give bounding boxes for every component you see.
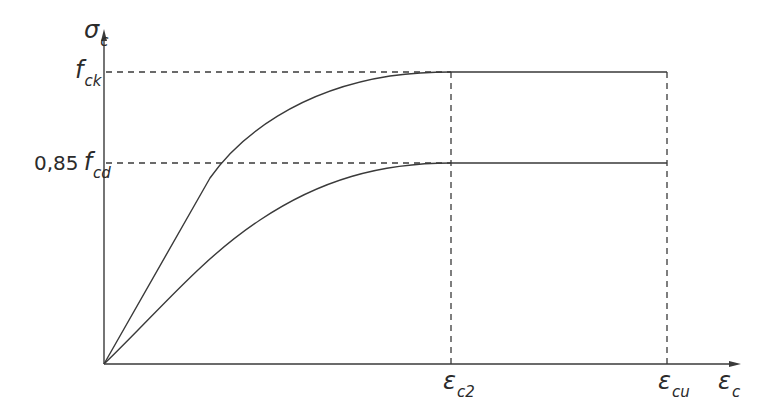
fcd-label: 0,85 fcd	[34, 150, 111, 174]
fck-subscript: ck	[84, 72, 101, 90]
fck-symbol: f	[75, 56, 83, 84]
characteristic-curve	[104, 72, 667, 364]
axes	[104, 36, 734, 364]
y-axis-label: σc	[84, 18, 108, 42]
ecu-subscript: cu	[672, 383, 690, 401]
y-axis-subscript: c	[100, 32, 108, 50]
x-axis-subscript: c	[732, 383, 740, 401]
x-axis-label: εc	[718, 369, 740, 393]
ec2-symbol: ε	[443, 367, 456, 395]
ec2-subscript: c2	[457, 383, 475, 401]
ecu-symbol: ε	[658, 367, 671, 395]
ecu-label: εcu	[658, 369, 690, 393]
stress-strain-diagram	[0, 0, 762, 413]
fcd-subscript: cd	[93, 164, 111, 182]
fck-label: fck	[75, 58, 101, 82]
design-curve	[104, 163, 667, 364]
fcd-factor: 0,85	[34, 151, 79, 175]
x-axis-symbol: ε	[718, 367, 731, 395]
dashed-guides	[106, 72, 667, 364]
fcd-symbol: f	[84, 148, 92, 176]
y-axis-symbol: σ	[84, 16, 99, 44]
curves	[104, 72, 667, 364]
ec2-label: εc2	[443, 369, 475, 393]
